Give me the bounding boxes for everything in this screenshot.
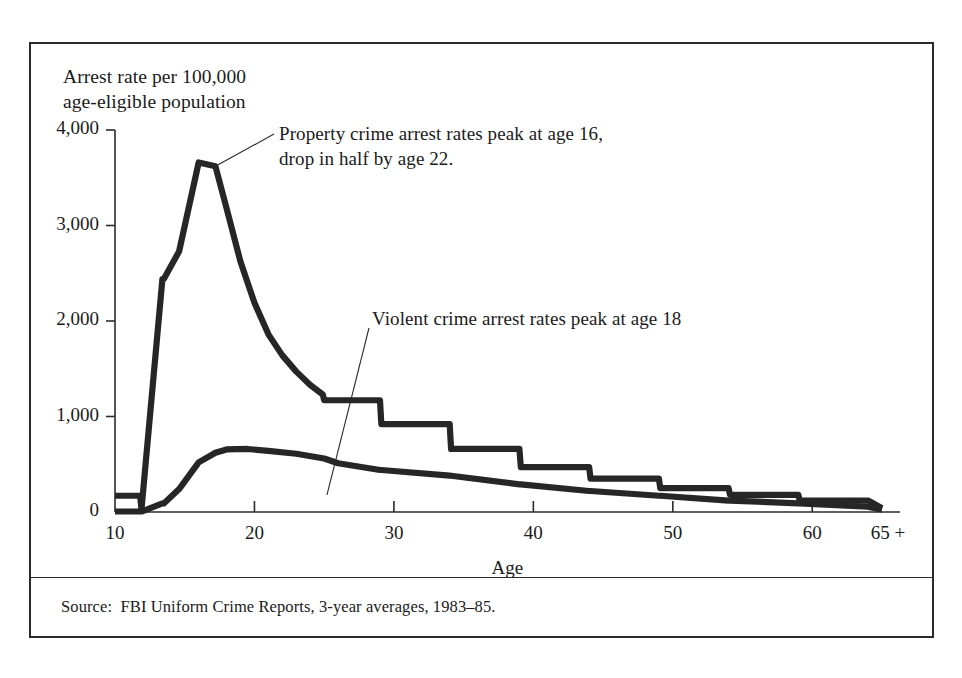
leader-line-property — [215, 134, 274, 166]
chart-canvas — [31, 44, 936, 640]
axes-group — [106, 130, 900, 512]
source-note: Source: FBI Uniform Crime Reports, 3-yea… — [61, 597, 496, 617]
figure-border: Arrest rate per 100,000 age-eligible pop… — [29, 42, 934, 638]
y-axis-ticks — [106, 130, 115, 417]
plot-area: Arrest rate per 100,000 age-eligible pop… — [31, 44, 936, 640]
source-divider — [31, 577, 932, 578]
figure-root: Arrest rate per 100,000 age-eligible pop… — [0, 0, 962, 678]
series-line-property-crime — [115, 162, 882, 509]
series-line-violent-crime — [115, 449, 882, 512]
series-group — [115, 162, 882, 511]
leader-lines — [215, 134, 369, 495]
